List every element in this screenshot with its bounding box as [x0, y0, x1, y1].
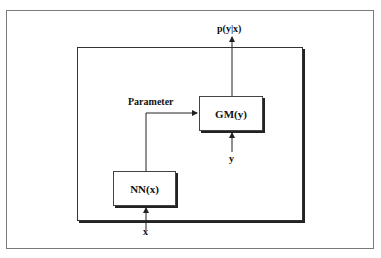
nn-block-label: NN(x) [130, 183, 159, 195]
gm-block: GM(y) [199, 96, 263, 131]
output-label: p(y|x) [217, 23, 241, 34]
gm-block-label: GM(y) [215, 108, 247, 120]
parameter-arrow [146, 113, 197, 171]
nn-block: NN(x) [113, 171, 176, 206]
y-input-label: y [229, 153, 234, 164]
parameter-label: Parameter [128, 96, 174, 107]
connector-lines [0, 0, 381, 258]
x-input-label: x [143, 226, 148, 237]
